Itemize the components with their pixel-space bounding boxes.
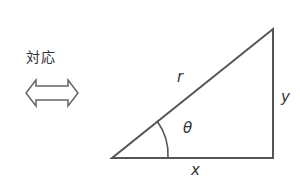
triangle-diagram [0, 0, 300, 186]
hypotenuse-label: r [177, 68, 183, 86]
right-triangle [112, 29, 273, 158]
angle-label: θ [183, 119, 192, 137]
double-arrow-icon [26, 80, 78, 106]
adjacent-side-label: x [191, 161, 200, 179]
opposite-side-label: y [281, 88, 290, 106]
angle-arc [157, 121, 168, 158]
